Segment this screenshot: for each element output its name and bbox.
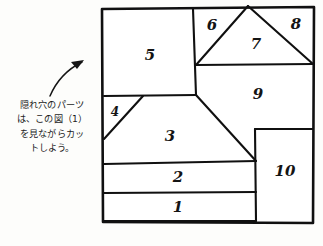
- part-label-7: 7: [251, 35, 262, 53]
- caption-line-3: を見ながらカッ: [2, 127, 102, 141]
- caption-line-1: 隠れ穴のパーツ: [2, 98, 102, 112]
- part-fill-frame: [102, 7, 314, 223]
- caption-line-4: トしよう。: [2, 141, 102, 155]
- worksheet-page: 1 2 3 4 5 6 7 8 9 10 隠れ穴のパーツ は、この図（1） を見…: [0, 0, 323, 246]
- part-label-4: 4: [111, 105, 119, 119]
- part-label-3: 3: [165, 127, 175, 145]
- part-label-10: 10: [275, 162, 296, 180]
- caption-line-2: は、この図（1）: [2, 112, 102, 126]
- cut-line-strip2-strip1: [104, 192, 256, 193]
- part-label-9: 9: [253, 85, 264, 103]
- instruction-caption: 隠れ穴のパーツ は、この図（1） を見ながらカッ トしよう。: [2, 98, 102, 156]
- diagram-shape-fills: [102, 7, 314, 223]
- cut-line-part5-bottom: [104, 95, 196, 96]
- cut-line-part10-left: [255, 129, 256, 221]
- part-label-2: 2: [172, 168, 183, 186]
- cut-line-triangle-row-bottom: [196, 64, 313, 65]
- part-label-5: 5: [145, 46, 155, 64]
- part-label-6: 6: [207, 16, 218, 34]
- part-label-8: 8: [291, 15, 302, 33]
- pointer-arrow-group: [50, 60, 84, 96]
- part-label-1: 1: [173, 198, 183, 216]
